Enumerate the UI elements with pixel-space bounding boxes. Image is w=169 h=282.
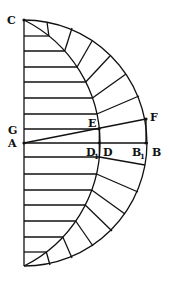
label-C: C xyxy=(7,14,16,27)
horizontal-lines-top xyxy=(24,36,99,129)
geometric-diagram: C G A E F D 1 D B 1 B xyxy=(0,0,169,282)
label-B1-subscript: 1 xyxy=(140,152,145,161)
label-F: F xyxy=(150,111,158,124)
label-E: E xyxy=(88,117,96,130)
label-D: D xyxy=(103,146,113,159)
label-B: B xyxy=(152,146,161,159)
spokes-bottom xyxy=(46,157,145,265)
label-A: A xyxy=(7,137,17,150)
label-G: G xyxy=(8,124,17,137)
line-AF xyxy=(24,119,146,143)
label-D1-subscript: 1 xyxy=(94,152,99,161)
